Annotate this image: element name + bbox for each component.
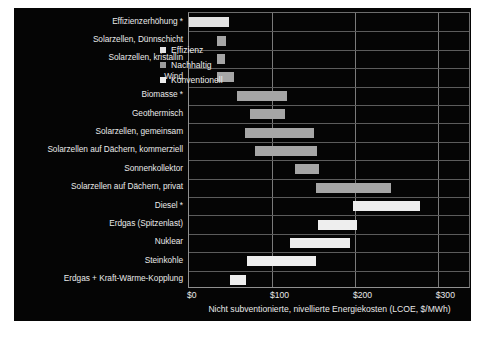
legend-swatch-icon [160, 77, 166, 83]
bar-row [189, 252, 469, 270]
bar-row [189, 234, 469, 252]
category-label: Geothermisch [132, 109, 183, 118]
category-label-row: Erdgas (Spitzenlast) [14, 214, 188, 232]
legend-label: Konventionell [171, 75, 223, 85]
category-label: Sonnenkollektor [124, 164, 183, 173]
bar[interactable] [245, 128, 315, 138]
category-label-row: Effizienzerhöhung * [14, 12, 188, 30]
category-label: Biomasse * [142, 90, 183, 99]
bar[interactable] [230, 275, 247, 285]
category-label: Steinkohle [145, 256, 183, 265]
bar[interactable] [353, 201, 419, 211]
category-label: Solarzellen auf Dächern, kommerziell [47, 145, 183, 154]
category-label-row: Solarzellen, gemeinsam [14, 122, 188, 140]
x-axis-tick-labels: $0$100$200$300 [188, 290, 470, 304]
legend-label: Nachhaltig [171, 60, 212, 70]
category-label-row: Solarzellen auf Dächern, privat [14, 178, 188, 196]
bar[interactable] [295, 164, 319, 174]
category-label: Diesel * [155, 201, 183, 210]
bar-row [189, 87, 469, 105]
category-label: Solarzellen auf Dächern, privat [71, 182, 183, 191]
category-label: Erdgas + Kraft-Wärme-Kopplung [64, 274, 183, 283]
bar-row [189, 142, 469, 160]
category-label-row: Geothermisch [14, 104, 188, 122]
bar-row [189, 105, 469, 123]
x-tick-label: $300 [436, 290, 455, 300]
bar-row [189, 123, 469, 141]
bar[interactable] [290, 238, 350, 248]
category-label-row: Erdgas + Kraft-Wärme-Kopplung [14, 269, 188, 287]
bar-row [189, 13, 469, 31]
bar[interactable] [255, 146, 317, 156]
legend-swatch-icon [160, 47, 166, 53]
bar[interactable] [318, 220, 357, 230]
bar[interactable] [316, 183, 391, 193]
category-label-row: Biomasse * [14, 86, 188, 104]
bar-row [189, 197, 469, 215]
category-label: Solarzellen, gemeinsam [96, 127, 183, 136]
category-label: Effizienzerhöhung * [112, 17, 183, 26]
legend-label: Effizienz [171, 45, 203, 55]
bar-row [189, 179, 469, 197]
bar-row [189, 271, 469, 289]
legend-item[interactable]: Nachhaltig [160, 58, 280, 72]
legend-item[interactable]: Effizienz [160, 43, 280, 57]
x-axis-title: Nicht subventionierte, nivellierte Energ… [188, 304, 471, 314]
category-label-row: Sonnenkollektor [14, 159, 188, 177]
category-label-row: Nuklear [14, 233, 188, 251]
x-tick-label: $100 [270, 290, 289, 300]
bar[interactable] [237, 91, 287, 101]
category-label: Nuklear [155, 237, 183, 246]
category-label-row: Steinkohle [14, 251, 188, 269]
x-tick-label: $0 [187, 290, 197, 300]
bar[interactable] [247, 256, 316, 266]
category-label-row: Diesel * [14, 196, 188, 214]
legend-swatch-icon [160, 62, 166, 68]
bar-row [189, 160, 469, 178]
legend-item[interactable]: Konventionell [160, 73, 280, 87]
bar[interactable] [189, 17, 229, 27]
chart-legend: EffizienzNachhaltigKonventionell [160, 43, 280, 88]
category-label-row: Solarzellen auf Dächern, kommerziell [14, 141, 188, 159]
bar[interactable] [250, 109, 286, 119]
chart-container: Effizienzerhöhung *Solarzellen, Dünnschi… [14, 8, 471, 321]
bar-row [189, 215, 469, 233]
x-tick-label: $200 [353, 290, 372, 300]
category-label: Erdgas (Spitzenlast) [109, 219, 183, 228]
